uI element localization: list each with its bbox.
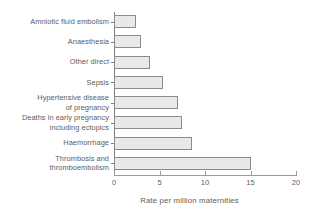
x-axis-title: Rate per million maternities: [0, 196, 325, 205]
plot-area: [114, 12, 296, 174]
x-axis-tick: [296, 171, 297, 175]
x-axis-tick-label: 10: [190, 178, 220, 187]
bar: [114, 56, 150, 69]
bar: [114, 35, 141, 48]
chart-figure: Amniotic fluid embolismAnaesthesiaOther …: [0, 0, 325, 215]
x-axis-tick: [251, 171, 252, 175]
bar-row: [114, 113, 296, 133]
x-axis-tick-label: 0: [99, 178, 129, 187]
category-label: Deaths in early pregnancy including ecto…: [0, 113, 109, 132]
bar-row: [114, 73, 296, 93]
category-label: Amniotic fluid embolism: [0, 17, 109, 26]
bar: [114, 76, 163, 89]
bar-row: [114, 134, 296, 154]
bar: [114, 96, 178, 109]
x-axis-line: [114, 175, 297, 176]
category-label: Thrombosis and thromboembolism: [0, 154, 109, 173]
x-axis-tick: [114, 171, 115, 175]
category-label: Anaesthesia: [0, 37, 109, 46]
bar: [114, 116, 182, 129]
category-label: Sepsis: [0, 78, 109, 87]
bar-row: [114, 12, 296, 32]
x-axis-tick-label: 15: [236, 178, 266, 187]
category-label: Haemorrhage: [0, 138, 109, 147]
bar-row: [114, 93, 296, 113]
category-label: Other direct: [0, 57, 109, 66]
bar-row: [114, 53, 296, 73]
bar: [114, 15, 136, 28]
x-axis-tick-label: 20: [281, 178, 311, 187]
category-label: Hypertensive disease of pregnancy: [0, 93, 109, 112]
x-axis-tick-label: 5: [145, 178, 175, 187]
x-axis-tick: [205, 171, 206, 175]
bar: [114, 137, 192, 150]
x-axis-tick: [160, 171, 161, 175]
bar: [114, 157, 251, 170]
bar-row: [114, 32, 296, 52]
